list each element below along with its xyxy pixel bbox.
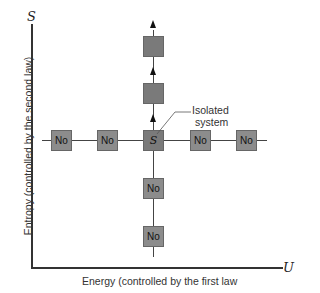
forbidden-state-box: No <box>236 130 257 151</box>
allowed-state-box <box>143 83 164 104</box>
allowed-state-box <box>143 36 164 57</box>
entropy-axis-symbol: S <box>27 9 36 24</box>
forbidden-state-box: No <box>51 130 72 151</box>
entropy-axis-label: Entropy (controlled by the second law) <box>22 56 34 236</box>
energy-axis-label: Energy (controlled by the first law <box>82 275 237 287</box>
forbidden-state-box: No <box>97 130 118 151</box>
forbidden-state-box: No <box>143 178 164 199</box>
energy-axis <box>31 267 283 269</box>
annotation-isolated: Isolated <box>192 104 229 116</box>
arrow-up-icon <box>150 20 156 28</box>
annotation-system: system <box>195 116 228 128</box>
annotation-leader-line <box>155 108 195 136</box>
energy-axis-symbol: U <box>283 260 294 275</box>
arrow-up-icon <box>150 67 156 75</box>
forbidden-state-box: No <box>143 226 164 247</box>
